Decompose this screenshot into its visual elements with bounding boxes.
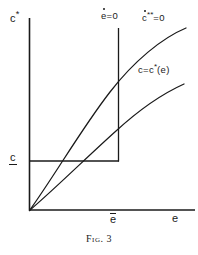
c-star-of-e-curve bbox=[30, 84, 185, 211]
e-bar-label: e bbox=[110, 213, 116, 225]
c-underbar-label: c bbox=[10, 152, 16, 165]
cdot-doublestar-rest: =0 bbox=[153, 12, 164, 23]
plot-canvas bbox=[0, 0, 198, 255]
c-underbar-glyph: c bbox=[10, 152, 16, 165]
figure-3: c* e e=0 c**=0 c=c*(e) c e Fig. 3 bbox=[0, 0, 198, 255]
c-star-of-e-label: c=c*(e) bbox=[138, 63, 170, 75]
x-axis-label: e bbox=[172, 213, 178, 224]
cdot-doublestar-base: c bbox=[142, 13, 147, 23]
cdot-doublestar-zero-label: c**=0 bbox=[142, 11, 165, 23]
y-axis-label-star: * bbox=[16, 9, 20, 19]
edot-zero-label: e=0 bbox=[101, 11, 118, 21]
edot-zero-base: e bbox=[101, 11, 107, 21]
c-star-of-e-suffix: (e) bbox=[157, 64, 170, 75]
e-bar-glyph: e bbox=[110, 213, 116, 225]
figure-caption-prefix: Fig. bbox=[86, 233, 103, 244]
edot-zero-rest: =0 bbox=[107, 10, 118, 21]
figure-caption: Fig. 3 bbox=[0, 233, 198, 244]
y-axis-label: c* bbox=[10, 10, 19, 24]
c-star-of-e-prefix: c=c bbox=[138, 64, 154, 75]
figure-caption-number: 3 bbox=[106, 233, 112, 244]
cdot-doublestar-zero-curve bbox=[30, 28, 187, 211]
